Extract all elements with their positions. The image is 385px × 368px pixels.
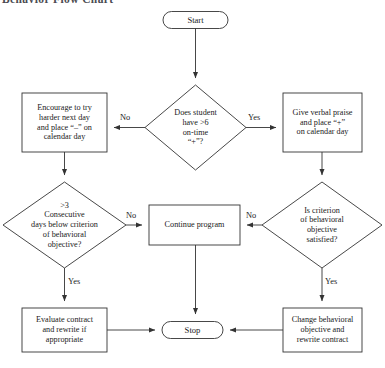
change-objective-box[interactable] <box>283 308 362 352</box>
edge-label-no-left-top: No <box>120 113 130 122</box>
encourage-box[interactable] <box>22 93 107 152</box>
edge-label-yes-right-top: Yes <box>248 113 260 122</box>
stop-terminal[interactable] <box>162 322 223 339</box>
edge-label-no-right-mid: No <box>246 211 256 220</box>
flowchart-page: Behavior Flow Chart <box>0 0 385 368</box>
start-terminal[interactable] <box>163 12 228 29</box>
decision-criterion[interactable] <box>262 182 382 268</box>
evaluate-contract-box[interactable] <box>22 308 107 352</box>
decision-on-time[interactable] <box>145 85 246 170</box>
edge-label-yes-left-bottom: Yes <box>68 277 80 286</box>
edge-label-yes-right-bottom: Yes <box>325 277 337 286</box>
decision-consecutive[interactable] <box>3 182 126 268</box>
praise-box[interactable] <box>283 93 362 152</box>
continue-program-box[interactable] <box>149 205 240 245</box>
edge-label-no-left-mid: No <box>126 211 136 220</box>
